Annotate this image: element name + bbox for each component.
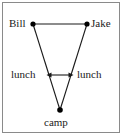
node-label-jake: Jake xyxy=(91,18,111,29)
edge-bill-camp xyxy=(33,24,60,110)
node-label-bill: Bill xyxy=(9,18,26,29)
edge-jake-camp xyxy=(60,24,87,110)
node-dot-bill xyxy=(30,21,35,26)
edge-label-lunch-left: lunch xyxy=(11,69,35,80)
edge-label-lunch-right: lunch xyxy=(77,69,101,80)
diagram-figure: Bill Jake lunch lunch camp xyxy=(0,0,124,137)
node-dot-jake xyxy=(84,21,89,26)
node-dot-camp xyxy=(57,107,63,113)
node-label-camp: camp xyxy=(44,117,68,128)
